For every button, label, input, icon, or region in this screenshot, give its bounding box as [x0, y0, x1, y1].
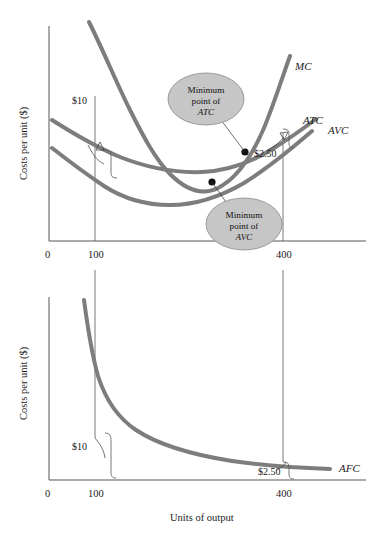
x-axis-title: Units of output [170, 512, 234, 523]
lower-tick-400: 400 [276, 488, 292, 499]
upper-y-axis-title: Costs per unit ($) [18, 106, 30, 180]
callout-avc-line2: point of [230, 221, 260, 231]
label-avc: AVC [327, 124, 349, 136]
curve-afc [84, 300, 330, 469]
callout-min-atc: Minimum point of ATC [168, 73, 244, 125]
leader-atc [221, 120, 245, 152]
label-ten-lower: $10 [72, 441, 87, 452]
label-afc: AFC [338, 462, 360, 474]
callout-avc-line3: AVC [235, 232, 254, 242]
upper-chart: Minimum point of ATC Minimum point of AV… [18, 22, 366, 260]
callout-atc-line2: point of [192, 96, 222, 106]
curve-atc [52, 119, 316, 172]
cost-curves-figure: Minimum point of ATC Minimum point of AV… [0, 0, 380, 549]
callout-avc-line1: Minimum [226, 210, 263, 220]
lower-y-axis-title: Costs per unit ($) [18, 346, 30, 420]
label-ten-upper: $10 [72, 95, 87, 106]
bracket-ten-lower: $10 [72, 433, 116, 478]
callout-atc-line3: ATC [197, 107, 215, 117]
callout-min-avc: Minimum point of AVC [206, 198, 282, 250]
lower-tick-100: 100 [88, 488, 104, 499]
upper-tick-0: 0 [45, 249, 50, 260]
lower-tick-0: 0 [45, 488, 50, 499]
label-twofifty-lower: $2.50 [258, 466, 281, 477]
callout-atc-line1: Minimum [188, 85, 225, 95]
upper-tick-400: 400 [276, 249, 292, 260]
upper-tick-100: 100 [88, 249, 104, 260]
lower-chart: $10 $2.50 AFC 0 100 400 Costs per unit (… [18, 270, 366, 523]
label-mc: MC [294, 60, 312, 72]
arrow-ten-lower [95, 438, 105, 458]
label-atc: ATC [302, 114, 323, 126]
label-twofifty-upper: $2.50 [254, 148, 277, 159]
